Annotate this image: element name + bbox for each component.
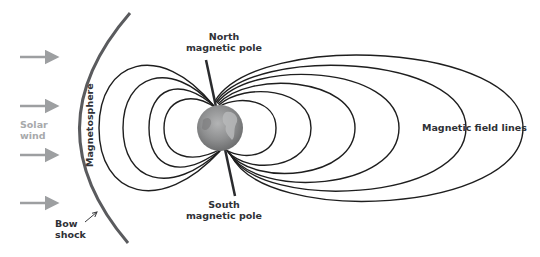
- solar-wind-label: Solar wind: [20, 119, 48, 141]
- solar-wind-label-line1: Solar: [20, 119, 48, 130]
- north-pole-label-line2: magnetic pole: [184, 42, 264, 53]
- solar-wind-label-line2: wind: [20, 130, 48, 141]
- south-pole-label-line1: South: [184, 199, 264, 210]
- earth-icon: [197, 105, 243, 151]
- south-pole-label-line2: magnetic pole: [184, 210, 264, 221]
- north-pole-label: North magnetic pole: [184, 31, 264, 53]
- bow-shock-label-line1: Bow: [55, 218, 86, 229]
- north-pole-label-line1: North: [184, 31, 264, 42]
- south-pole-label: South magnetic pole: [184, 199, 264, 221]
- bow-shock-label-line2: shock: [55, 229, 86, 240]
- bow-shock-label: Bow shock: [55, 218, 86, 240]
- bow-shock-pointer-icon: [85, 212, 97, 222]
- field-lines-label: Magnetic field lines: [422, 122, 527, 133]
- magnetosphere-label: Magnetosphere: [84, 83, 95, 167]
